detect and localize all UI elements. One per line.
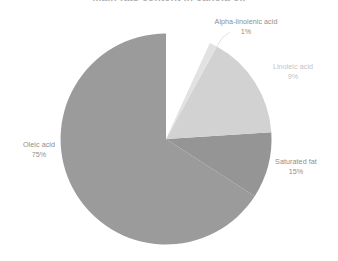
data-label-value: 9% xyxy=(249,72,337,82)
data-label-name: Saturated fat xyxy=(275,157,317,166)
data-label-value: 1% xyxy=(186,27,306,37)
data-label-saturated-fat: Saturated fat 15% xyxy=(254,157,338,178)
pie-chart-canvas xyxy=(0,0,338,261)
pie-slice-linoleic-acid[interactable] xyxy=(166,47,271,139)
pie-slices xyxy=(61,34,272,245)
data-label-value: 15% xyxy=(254,167,338,177)
pie-chart-figure: Main fats content in canola oil Alpha-li… xyxy=(0,0,338,261)
data-label-name: Linoleic acid xyxy=(273,62,313,71)
data-label-name: Alpha-linolenic acid xyxy=(215,17,278,26)
data-label-linoleic-acid: Linoleic acid 9% xyxy=(249,62,337,83)
data-label-name: Oleic acid xyxy=(23,140,55,149)
data-label-value: 75% xyxy=(2,150,76,160)
data-label-oleic-acid: Oleic acid 75% xyxy=(2,140,76,161)
data-label-alpha-linolenic-acid: Alpha-linolenic acid 1% xyxy=(186,17,306,38)
